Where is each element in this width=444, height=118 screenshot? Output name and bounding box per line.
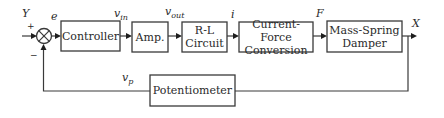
msd-label-line2: Damper bbox=[342, 37, 387, 50]
arrow-icon bbox=[41, 44, 47, 50]
vp-subscript: p bbox=[128, 77, 133, 86]
summing-junction bbox=[37, 29, 52, 44]
vin-subscript: in bbox=[120, 13, 128, 22]
cfc-label-line2: Conversion bbox=[245, 44, 308, 57]
arrow-icon bbox=[411, 33, 417, 39]
rl-label-line1: R-L bbox=[195, 24, 214, 37]
rl-label-line2: Circuit bbox=[185, 37, 223, 50]
potentiometer-label: Potentiometer bbox=[150, 75, 235, 106]
signal-x-label: X bbox=[412, 18, 420, 30]
current-force-label: Current-Force Conversion bbox=[239, 22, 313, 52]
signal-i-label: i bbox=[231, 9, 235, 21]
rl-circuit-label: R-L Circuit bbox=[182, 22, 227, 52]
feedback-line-left bbox=[44, 47, 151, 91]
signal-vp-label: vp bbox=[122, 72, 133, 88]
signal-vin-label: vin bbox=[114, 8, 128, 24]
signal-e-label: e bbox=[51, 11, 58, 23]
signal-y-label: Y bbox=[22, 8, 29, 20]
minus-sign: − bbox=[30, 50, 38, 60]
mass-spring-damper-label: Mass-Spring Damper bbox=[327, 21, 402, 52]
amp-label: Amp. bbox=[132, 22, 168, 52]
vout-subscript: out bbox=[171, 11, 184, 20]
signal-vout-label: vout bbox=[165, 6, 184, 22]
plus-sign: + bbox=[27, 21, 35, 31]
cfc-label-line1: Current-Force bbox=[239, 18, 313, 44]
block-diagram: Controller Amp. R-L Circuit Current-Forc… bbox=[0, 0, 444, 118]
msd-label-line1: Mass-Spring bbox=[329, 24, 399, 37]
signal-f-label: F bbox=[316, 8, 324, 20]
controller-label: Controller bbox=[61, 21, 120, 51]
